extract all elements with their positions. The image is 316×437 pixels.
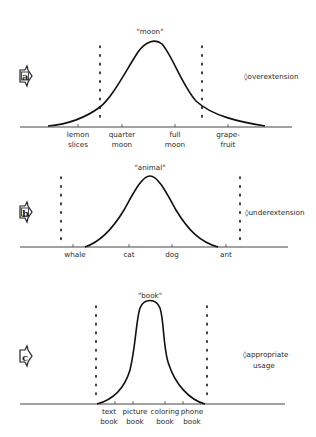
tick-label: picture [122, 407, 148, 416]
panel-a-curve [48, 41, 265, 126]
tick-label: lemon [67, 130, 89, 139]
panel-c-tick-labels: text book picture book coloring book pho… [100, 407, 204, 426]
panel-a-side-label: ◊overextension [244, 72, 298, 81]
tick-label: ant [220, 250, 232, 259]
panel-a-tick-labels: lemon slices quarter moon full moon grap… [67, 130, 240, 149]
badge-a-letter: a [22, 71, 29, 82]
tick-label: full [169, 130, 180, 139]
tick-label: cat [123, 250, 134, 259]
tick-label: moon [112, 140, 132, 149]
panel-c-side-label-line1: ◊appropriate [243, 350, 289, 359]
badge-c-letter: c [22, 352, 28, 363]
tick-label: dog [165, 250, 179, 259]
tick-label: book [183, 417, 201, 426]
panel-c: c "book" text book picture book coloring… [20, 291, 289, 426]
tick-label: grape- [216, 130, 240, 139]
tick-label: text [102, 407, 116, 416]
badge-a-icon: a [20, 66, 32, 86]
panel-c-curve [97, 301, 205, 405]
panel-b: b "animal" whale cat dog ant ◊underexten… [20, 163, 304, 259]
tick-label: book [156, 417, 174, 426]
tick-label: book [126, 417, 144, 426]
tick-label: whale [64, 250, 86, 259]
badge-b-icon: b [20, 202, 32, 222]
panel-c-title: "book" [138, 291, 162, 300]
badge-c-icon: c [20, 346, 32, 366]
badge-b-letter: b [22, 208, 29, 219]
tick-label: book [100, 417, 118, 426]
panel-c-side-label-line2: usage [253, 361, 275, 370]
panel-b-tick-labels: whale cat dog ant [64, 250, 232, 259]
tick-label: slices [68, 140, 88, 149]
panel-b-curve [85, 176, 218, 247]
concept-extension-diagram: a "moon" lemon slices quarter moon full … [0, 0, 316, 437]
tick-label: fruit [221, 140, 236, 149]
panel-a-title: "moon" [137, 27, 164, 36]
tick-label: phone [181, 407, 204, 416]
panel-a: a "moon" lemon slices quarter moon full … [20, 27, 298, 149]
tick-label: moon [165, 140, 185, 149]
panel-b-side-label: ◊underextension [245, 208, 304, 217]
panel-b-title: "animal" [135, 163, 166, 172]
tick-label: quarter [109, 130, 136, 139]
tick-label: coloring [151, 407, 180, 416]
